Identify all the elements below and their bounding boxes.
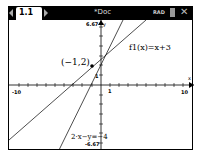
ymax-label: 6.67 <box>86 21 99 27</box>
intersection-point <box>90 64 94 68</box>
angle-mode-indicator: RAD <box>153 9 165 15</box>
xmax-label: 10 <box>181 89 188 95</box>
eq2-label: 2·x−y=−4 <box>71 133 108 141</box>
f1-label: f1(x)=x+3 <box>129 43 171 52</box>
close-icon[interactable]: ✕ <box>180 6 188 17</box>
document-title: *Doc <box>94 8 111 16</box>
document-toolbar: 1.1 *Doc RAD ✕ <box>8 6 193 20</box>
tab-left-arrow-icon[interactable] <box>9 9 13 17</box>
xmin-label: -10 <box>12 89 22 95</box>
graph-canvas[interactable]: -10 10 1 x 6.67 y 1 -6.67 f1(x)=x+3 2·x−… <box>9 20 194 150</box>
ymin-label: -6.67 <box>85 141 100 147</box>
x-tick-label: 1 <box>108 88 112 94</box>
x-axis-label: x <box>188 75 191 81</box>
tab-label: 1.1 <box>19 8 33 17</box>
y-axis-label: y <box>103 21 106 28</box>
f1-line <box>9 20 146 140</box>
y-tick-label: 1 <box>95 73 99 79</box>
point-label: (−1,2) <box>61 57 90 67</box>
x-axis-arrow-icon <box>189 82 194 88</box>
tab-right-arrow-icon[interactable] <box>44 9 48 17</box>
battery-icon <box>170 8 175 17</box>
graph-area[interactable]: -10 10 1 x 6.67 y 1 -6.67 f1(x)=x+3 2·x−… <box>8 20 193 150</box>
tab-page-1-1[interactable]: 1.1 <box>16 7 42 20</box>
